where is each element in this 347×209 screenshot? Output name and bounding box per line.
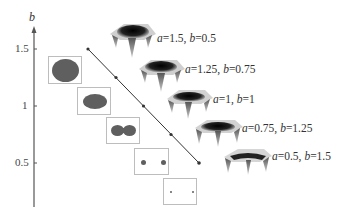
surface-label-2: a=1.25, b=0.75 [185,63,256,75]
surface-label-1: a=1.5, b=0.5 [157,32,216,44]
path-point [86,47,89,50]
path-point [142,104,145,107]
path-point [114,76,117,79]
disc-shape [52,59,79,82]
tick-label-1-5: 1.5 [15,42,29,54]
inset-dumbbell [106,117,140,144]
surface-label-3: a=1, b=1 [213,93,255,105]
path-point [197,161,201,165]
dumbbell-neck [120,128,127,133]
inset-ellipse [77,87,111,115]
surface-label-4: a=0.75, b=1.25 [242,122,313,134]
surface-plot-5 [222,146,274,182]
surface-label-5: a=0.5, b=1.5 [272,150,331,162]
axis-arrow-icon [32,26,37,33]
path-point [169,133,172,136]
inset-two-dots [134,148,169,175]
ellipse-shape [83,94,107,109]
surface-plot-1 [108,18,158,60]
inset-two-small-dots [163,178,197,205]
small-dot-left [170,191,172,193]
tick-label-1: 1 [22,99,28,111]
dot-left [141,160,146,165]
axis-title-b: b [29,10,35,25]
small-dot-right [192,191,194,193]
inset-large-disc [48,56,82,84]
tick-label-0-5: 0.5 [15,156,29,168]
dot-right [161,160,166,165]
